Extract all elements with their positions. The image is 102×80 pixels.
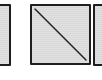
diagonal-slash-icon <box>32 6 89 63</box>
panel-left[interactable] <box>0 4 11 66</box>
panel-right[interactable] <box>93 4 102 66</box>
panel-strip <box>0 0 102 80</box>
panel-center[interactable] <box>30 4 91 65</box>
